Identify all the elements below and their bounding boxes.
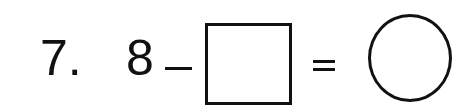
blank-answer-box[interactable] <box>205 23 292 105</box>
answer-circle[interactable] <box>368 14 452 102</box>
problem-number: 7. <box>40 33 82 83</box>
minus-sign <box>165 67 192 70</box>
minuend: 8 <box>126 33 154 83</box>
